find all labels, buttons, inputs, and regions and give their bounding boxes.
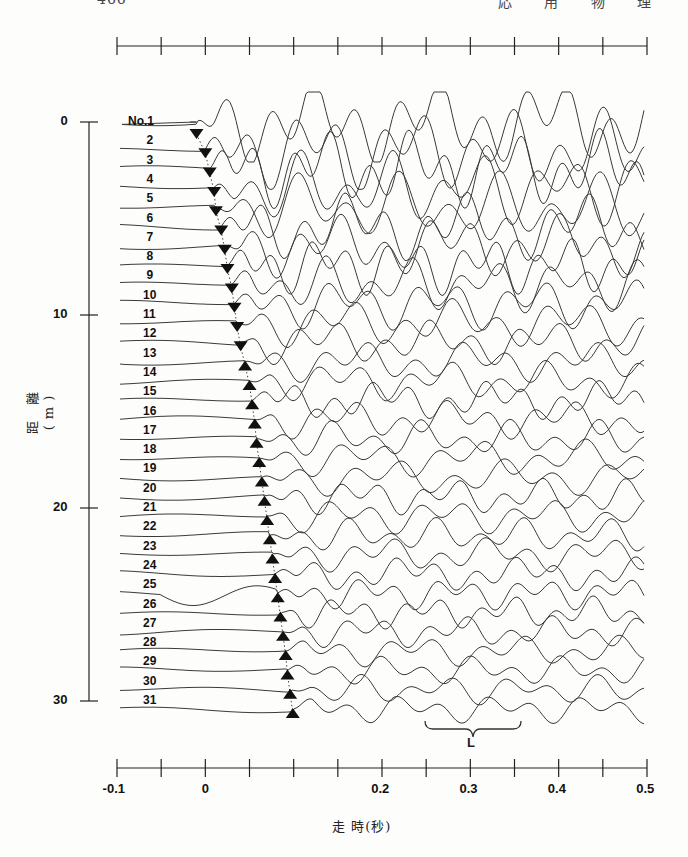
first-arrival-line	[197, 134, 293, 713]
trace-label: 12	[143, 326, 156, 340]
top-time-axis	[117, 37, 647, 55]
trace-label: 16	[143, 404, 156, 418]
pick-triangle-up	[280, 669, 294, 679]
trace-4	[120, 150, 644, 226]
trace-label: 15	[143, 384, 156, 398]
pick-triangle-down	[218, 245, 232, 255]
trace-label: 26	[143, 597, 156, 611]
trace-label: 18	[143, 442, 156, 456]
y-tick-label: 10	[53, 306, 67, 321]
trace-25	[120, 580, 644, 610]
x-tick-label: 0.4	[548, 781, 566, 796]
trace-label: 22	[143, 519, 156, 533]
trace-26	[120, 596, 644, 629]
trace-13	[120, 342, 644, 382]
trace-label: 21	[143, 500, 156, 514]
trace-label: 4	[147, 172, 154, 186]
pick-triangle-up	[273, 612, 287, 622]
trace-27	[120, 616, 644, 648]
trace-11	[120, 299, 644, 348]
trace-label: 5	[147, 191, 154, 205]
trace-label: 20	[143, 481, 156, 495]
trace-label: 2	[147, 133, 154, 147]
y-tick-label: 20	[53, 499, 67, 514]
trace-label: 23	[143, 539, 156, 553]
trace-30	[120, 675, 644, 705]
distance-axis	[80, 122, 98, 701]
trace-19	[120, 459, 644, 496]
pick-triangle-down	[220, 264, 234, 274]
trace-14	[120, 361, 644, 401]
trace-label: 28	[143, 635, 156, 649]
trace-label: 27	[143, 616, 156, 630]
trace-label: 8	[147, 249, 154, 263]
trace-10	[120, 280, 644, 330]
trace-7	[120, 214, 644, 279]
trace-label: 17	[143, 423, 156, 437]
pick-triangle-down	[227, 303, 241, 313]
pick-triangle-up	[271, 592, 285, 602]
trace-6	[120, 192, 644, 260]
trace-label: 13	[143, 346, 156, 360]
pick-triangle-up	[255, 476, 269, 486]
x-tick-label: 0.3	[460, 781, 478, 796]
trace-label: 30	[143, 674, 156, 688]
pick-triangle-down	[190, 129, 204, 139]
pick-triangle-down	[209, 206, 223, 216]
trace-16	[120, 401, 644, 440]
trace-label: 3	[147, 153, 154, 167]
x-tick-label: -0.1	[103, 781, 125, 796]
x-tick-label: 0	[202, 781, 209, 796]
pick-triangle-down	[234, 341, 248, 351]
trace-label: 19	[143, 461, 156, 475]
trace-22	[120, 518, 644, 551]
trace-label: 31	[143, 693, 156, 707]
pick-triangle-up	[286, 708, 300, 718]
pick-triangle-down	[230, 322, 244, 332]
trace-label: 10	[143, 288, 156, 302]
trace-17	[120, 419, 644, 455]
pick-triangle-down	[207, 187, 221, 197]
trace-label: 7	[147, 230, 154, 244]
record-section-plot	[0, 0, 688, 857]
trace-21	[120, 501, 644, 534]
bottom-time-axis	[117, 759, 647, 777]
trace-label: 25	[143, 577, 156, 591]
pick-triangle-up	[258, 496, 272, 506]
waveform-traces	[120, 92, 644, 724]
brace-label-L: L	[467, 735, 475, 750]
trace-2	[120, 107, 644, 189]
trace-5	[120, 171, 644, 238]
trace-24	[120, 557, 644, 591]
pick-triangle-down	[198, 148, 212, 158]
trace-label: 29	[143, 654, 156, 668]
trace-label: 24	[143, 558, 156, 572]
trace-label: 9	[147, 268, 154, 282]
trace-label: 14	[143, 365, 156, 379]
trace-label: No.1	[128, 114, 154, 128]
trace-label: 11	[143, 307, 156, 321]
y-axis-title: 距 離 (m)	[22, 365, 56, 455]
pick-triangle-up	[248, 419, 262, 429]
y-tick-label: 0	[61, 113, 68, 128]
x-tick-label: 0.5	[636, 781, 654, 796]
pick-triangle-up	[265, 554, 279, 564]
y-tick-label: 30	[53, 692, 67, 707]
trace-28	[120, 635, 644, 667]
trace-23	[120, 538, 644, 572]
pick-triangle-up	[263, 534, 277, 544]
trace-label: 6	[147, 211, 154, 225]
trace-29	[120, 656, 644, 684]
x-axis-title: 走 時(秒)	[332, 816, 391, 835]
pick-triangle-down	[225, 283, 239, 293]
pick-triangle-down	[203, 168, 217, 178]
trace-12	[120, 320, 644, 365]
trace-3	[120, 128, 644, 208]
x-tick-label: 0.2	[371, 781, 389, 796]
